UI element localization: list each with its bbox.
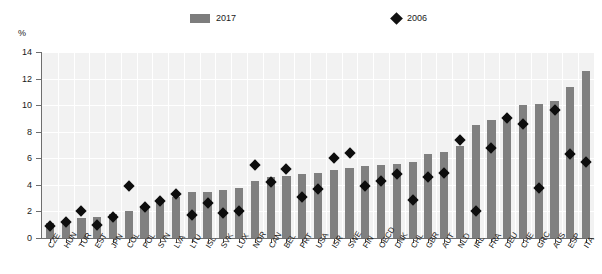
bar-swe: [345, 168, 353, 238]
legend-bar-swatch-icon: [190, 14, 210, 23]
y-axis-tick: [36, 211, 41, 212]
bar-deu: [503, 116, 511, 238]
x-gridline: [200, 52, 201, 238]
y-axis-tick-label: 10: [0, 100, 32, 110]
x-gridline: [484, 52, 485, 238]
x-gridline: [152, 52, 153, 238]
x-gridline: [231, 52, 232, 238]
chart-container: 2017 2006 % 02468101214 CZEHUNTURESTJPNC…: [0, 0, 602, 274]
x-gridline: [436, 52, 437, 238]
marker-nld: [454, 134, 465, 145]
x-gridline: [342, 52, 343, 238]
y-axis-tick: [36, 185, 41, 186]
bar-fra: [487, 120, 495, 238]
x-gridline: [105, 52, 106, 238]
y-gridline: [42, 52, 594, 53]
y-axis-unit-label: %: [18, 28, 26, 38]
x-gridline: [515, 52, 516, 238]
y-axis-tick-label: 6: [0, 153, 32, 163]
chart-legend: 2017 2006: [0, 12, 602, 34]
bar-aut: [440, 152, 448, 238]
x-gridline: [562, 52, 563, 238]
x-gridline: [168, 52, 169, 238]
y-axis-tick: [36, 132, 41, 133]
legend-label-2006: 2006: [407, 14, 427, 23]
x-gridline: [373, 52, 374, 238]
x-gridline: [294, 52, 295, 238]
x-gridline: [452, 52, 453, 238]
x-gridline: [58, 52, 59, 238]
bar-bel: [282, 176, 290, 238]
x-gridline: [89, 52, 90, 238]
y-axis-line: [41, 52, 42, 239]
bar-irl: [472, 125, 480, 238]
x-gridline: [263, 52, 264, 238]
x-gridline: [184, 52, 185, 238]
x-gridline: [421, 52, 422, 238]
y-axis-tick-label: 12: [0, 74, 32, 84]
bar-esp: [566, 87, 574, 238]
x-gridline: [357, 52, 358, 238]
y-axis-tick: [36, 52, 41, 53]
bar-ita: [582, 71, 590, 238]
marker-swe: [344, 147, 355, 158]
y-axis-tick: [36, 79, 41, 80]
x-gridline: [247, 52, 248, 238]
marker-nor: [249, 159, 260, 170]
y-axis-tick-label: 4: [0, 180, 32, 190]
x-gridline: [499, 52, 500, 238]
x-gridline: [578, 52, 579, 238]
x-gridline: [326, 52, 327, 238]
x-gridline: [279, 52, 280, 238]
legend-label-2017: 2017: [216, 14, 236, 23]
legend-diamond-swatch-icon: [390, 12, 403, 25]
bar-prt: [298, 174, 306, 238]
y-gridline: [42, 105, 594, 106]
bar-nor: [251, 181, 259, 238]
x-gridline: [389, 52, 390, 238]
bar-fin: [361, 166, 369, 238]
legend-item-2017: 2017: [190, 14, 236, 23]
bar-gbr: [424, 154, 432, 238]
marker-col: [123, 181, 134, 192]
y-axis-tick-label: 14: [0, 47, 32, 57]
bar-isr: [330, 170, 338, 238]
y-axis-tick: [36, 105, 41, 106]
y-gridline: [42, 79, 594, 80]
bar-aus: [550, 101, 558, 238]
y-axis-tick-label: 0: [0, 233, 32, 243]
x-gridline: [531, 52, 532, 238]
x-gridline: [137, 52, 138, 238]
x-gridline: [310, 52, 311, 238]
legend-item-2006: 2006: [392, 14, 427, 23]
x-gridline: [405, 52, 406, 238]
x-gridline: [547, 52, 548, 238]
bar-grc: [535, 104, 543, 238]
y-axis-tick-label: 2: [0, 206, 32, 216]
plot-area: [42, 52, 594, 238]
marker-tur: [76, 206, 87, 217]
y-axis-tick-label: 8: [0, 127, 32, 137]
marker-isr: [328, 153, 339, 164]
y-axis-tick: [36, 158, 41, 159]
x-gridline: [215, 52, 216, 238]
x-gridline: [468, 52, 469, 238]
marker-bel: [281, 163, 292, 174]
y-axis-tick: [36, 238, 41, 239]
x-gridline: [121, 52, 122, 238]
bar-nld: [456, 146, 464, 238]
